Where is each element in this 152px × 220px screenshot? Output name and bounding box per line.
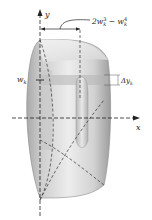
level-label: wk <box>17 75 26 85</box>
y-axis-label: y <box>44 10 50 19</box>
solid-of-revolution-diagram: y x 2wk3 − wk4 wk Δyk <box>0 0 152 220</box>
solid-top-cap <box>40 40 108 62</box>
outer-width-label: 2wk3 − wk4 <box>91 16 127 27</box>
solid-outer-surface <box>27 40 111 198</box>
dimension-arrow-right-icon <box>76 27 80 30</box>
thickness-label: Δyk <box>120 77 133 86</box>
inner-hole-left <box>40 70 52 150</box>
label-leader-curve <box>60 20 90 29</box>
x-axis-label: x <box>136 123 141 132</box>
dimension-arrow-left-icon <box>41 27 45 30</box>
y-axis-arrow-icon <box>38 9 43 16</box>
inner-hole-right <box>76 77 88 148</box>
x-axis-arrow-icon <box>133 116 140 121</box>
